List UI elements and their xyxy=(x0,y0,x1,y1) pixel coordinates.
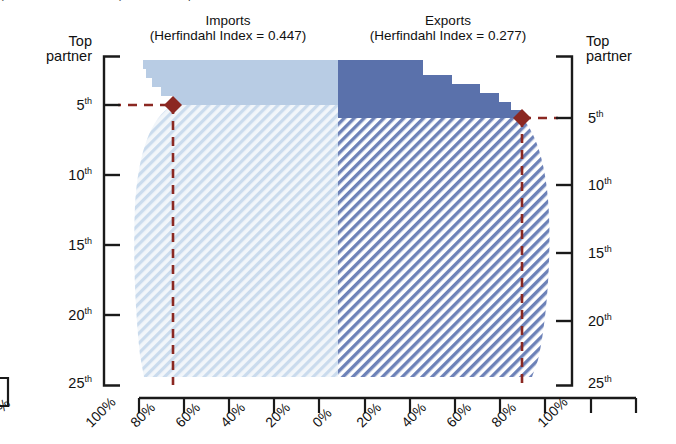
left-ytick-25th-num: 25 xyxy=(68,375,84,391)
right-ytick-15th-sup: th xyxy=(604,244,612,254)
left-ytick-20th-sup: th xyxy=(84,306,92,316)
plot-area xyxy=(118,55,558,385)
left-axis-bracket xyxy=(96,55,122,387)
panel-title-exports: Exports (Herfindahl Index = 0.277) xyxy=(338,14,558,43)
right-ytick-25th: 25th xyxy=(588,375,612,390)
panel-title-imports: Imports (Herfindahl Index = 0.447) xyxy=(118,14,338,43)
left-ytick-15th-sup: th xyxy=(84,236,92,246)
right-ytick-15th-num: 15 xyxy=(588,245,604,261)
cut-off-caption: (Source: UN Comtrade) Cumulative partner… xyxy=(0,0,676,3)
right-ytick-15th: 15th xyxy=(588,245,612,260)
left-ytick-5th: 5th xyxy=(40,97,92,112)
left-ytick-5th-sup: th xyxy=(84,96,92,106)
left-ytick-15th-num: 15 xyxy=(68,237,84,253)
left-ytick-10th-sup: th xyxy=(84,166,92,176)
left-ytick-20th-num: 20 xyxy=(68,307,84,323)
imports-title-line1: Imports xyxy=(118,14,338,29)
right-ytick-25th-sup: th xyxy=(604,374,612,384)
right-ytick-5th-num: 5 xyxy=(588,110,596,126)
right-ytick-20th-num: 20 xyxy=(588,313,604,329)
right-ytick-5th: 5th xyxy=(588,110,604,125)
imports-body-tint xyxy=(134,105,338,377)
right-ytick-20th-sup: th xyxy=(604,312,612,322)
right-ytick-10th: 10th xyxy=(588,177,612,192)
exports-title-line2: (Herfindahl Index = 0.277) xyxy=(338,29,558,44)
exports-title-line1: Exports xyxy=(338,14,558,29)
right-ylabel-top-partner: Top partner xyxy=(586,34,672,64)
chart-canvas xyxy=(118,55,558,385)
left-ytick-25th: 25th xyxy=(34,375,92,390)
left-ytick-15th: 15th xyxy=(34,237,92,252)
right-ylabel-top-line2: partner xyxy=(586,49,672,64)
left-ylabel-top-line1: Top xyxy=(6,34,92,49)
left-ylabel-top-partner: Top partner xyxy=(6,34,92,64)
right-axis-bracket xyxy=(554,55,580,387)
exports-hatched-body xyxy=(338,118,549,377)
right-ytick-10th-sup: th xyxy=(604,176,612,186)
imports-title-line2: (Herfindahl Index = 0.447) xyxy=(118,29,338,44)
left-ylabel-top-line2: partner xyxy=(6,49,92,64)
exports-step-band xyxy=(338,60,522,118)
right-ytick-10th-num: 10 xyxy=(588,177,604,193)
chart-figure: (Source: UN Comtrade) Cumulative partner… xyxy=(0,0,676,444)
left-ytick-20th: 20th xyxy=(34,307,92,322)
right-ytick-5th-sup: th xyxy=(596,109,604,119)
left-ytick-10th-num: 10 xyxy=(68,167,84,183)
right-ytick-25th-num: 25 xyxy=(588,375,604,391)
right-ylabel-top-line1: Top xyxy=(586,34,672,49)
left-ytick-10th: 10th xyxy=(34,167,92,182)
right-ytick-20th: 20th xyxy=(588,313,612,328)
left-ytick-25th-sup: th xyxy=(84,374,92,384)
